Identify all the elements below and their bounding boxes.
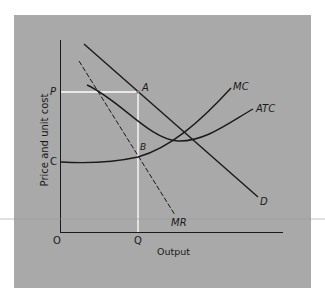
label-mr: MR (171, 218, 187, 228)
label-c: C (50, 157, 57, 167)
label-a: A (142, 83, 149, 93)
label-p: P (50, 87, 56, 97)
point-a-marker (136, 90, 139, 93)
label-mc: MC (233, 82, 249, 92)
y-axis-title: Price and unit cost (39, 94, 50, 187)
label-atc: ATC (256, 104, 275, 114)
label-b: B (140, 143, 146, 152)
average-total-cost-curve (87, 85, 253, 141)
demand-curve (84, 44, 258, 197)
marginal-revenue-curve (79, 61, 175, 215)
label-q: Q (134, 236, 142, 246)
label-origin: O (53, 236, 61, 246)
x-axis-title: Output (157, 247, 190, 257)
label-d: D (260, 197, 268, 207)
